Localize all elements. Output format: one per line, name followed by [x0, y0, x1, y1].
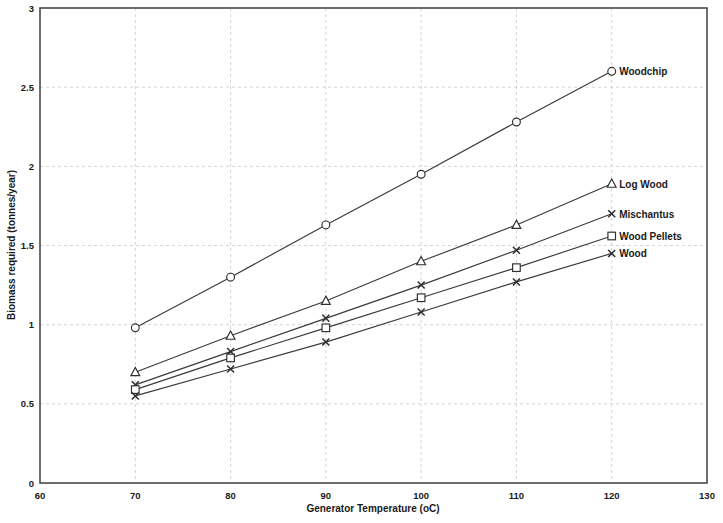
chart-container: 00.511.522.53 60708090100110120130 Woodc… [0, 0, 723, 523]
y-tick-label: 0 [29, 478, 34, 489]
series-mischantus [132, 210, 615, 388]
x-tick-label: 120 [604, 490, 620, 501]
x-tick-label: 90 [321, 490, 332, 501]
x-tick-label: 100 [413, 490, 429, 501]
y-tick-label: 3 [29, 3, 34, 14]
x-tick-label: 130 [699, 490, 715, 501]
x-tick-label: 110 [509, 490, 524, 501]
biomass-line-chart: 00.511.522.53 60708090100110120130 Woodc… [0, 0, 723, 523]
x-axis-title: Generator Temperature (oC) [306, 503, 439, 514]
series-wood-pellets [131, 232, 615, 393]
y-tick-label: 2 [29, 161, 34, 172]
y-axis-tick-labels: 00.511.522.53 [21, 3, 35, 489]
x-axis-tick-labels: 60708090100110120130 [35, 490, 715, 501]
series-label-wood-pellets: Wood Pellets [619, 231, 682, 242]
series-label-wood: Wood [619, 248, 647, 259]
x-tick-label: 80 [225, 490, 236, 501]
y-tick-label: 2.5 [21, 82, 35, 93]
x-tick-label: 70 [130, 490, 141, 501]
series-label-mischantus: Mischantus [619, 209, 674, 220]
series-end-labels: WoodchipLog WoodMischantusWood PelletsWo… [619, 66, 682, 259]
series-label-log-wood: Log Wood [619, 179, 668, 190]
grid-lines [40, 8, 707, 483]
series-layer [131, 67, 616, 399]
y-tick-label: 0.5 [21, 398, 35, 409]
series-label-woodchip: Woodchip [619, 66, 667, 77]
y-tick-label: 1 [29, 319, 35, 330]
y-tick-label: 1.5 [21, 240, 35, 251]
x-tick-label: 60 [35, 490, 46, 501]
y-axis-title: Biomass required (tonnes/year) [6, 170, 17, 320]
series-woodchip [131, 67, 615, 331]
series-log-wood [131, 179, 616, 376]
